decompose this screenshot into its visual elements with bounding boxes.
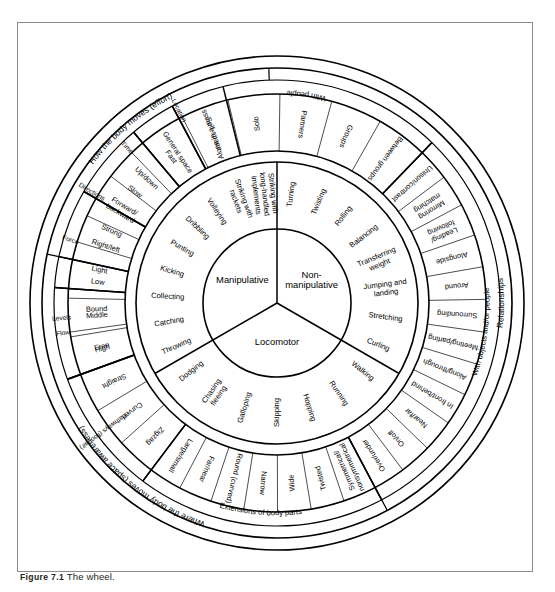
- item-label-4-11-text: Over/under: [360, 437, 388, 473]
- figure-caption-text: The wheel.: [67, 571, 115, 582]
- skill-locomotor-6: Dodging: [177, 359, 205, 384]
- skill-non-manipulative-2: Rolling: [333, 204, 354, 228]
- item-label-6-1: Curved: [120, 400, 145, 421]
- item-label-4-1-text: Mirroringmatching: [412, 191, 447, 222]
- skill-locomotor-1: Running: [327, 379, 350, 407]
- wheel-diagram: How the body moves (effort)Relationships…: [18, 23, 532, 571]
- core-label-non-manipulative: Non-manipulative: [285, 269, 338, 291]
- group-label-1: Force: [62, 233, 80, 245]
- item-group-divider-end-9: [226, 100, 240, 155]
- item-label-6-0: Zigzag: [145, 425, 167, 447]
- group-label-8-text: Directions: [78, 181, 107, 202]
- skill-manipulative-6-text: Collecting: [151, 291, 185, 302]
- item-label-7-2-text: Low: [91, 276, 106, 287]
- item-label-4-5-text: Surrounding: [437, 309, 478, 320]
- item-label-5-1: Twisted: [313, 465, 328, 491]
- group-label-4: With objects and/or people: [470, 287, 492, 377]
- item-divider-5-5: [211, 447, 229, 501]
- item-label-5-5-text: Far/near: [197, 455, 216, 485]
- skill-non-manipulative-5: Jumping andlanding: [363, 277, 408, 300]
- item-label-4-6: Meeting/parting: [427, 333, 479, 353]
- quadrant-divider-2: [382, 500, 388, 511]
- item-divider-4-5: [429, 299, 486, 300]
- group-divider-end-2: [55, 287, 69, 288]
- core-label-locomotor: Locomotor: [255, 336, 299, 347]
- skill-manipulative-2: Volleying: [205, 196, 229, 226]
- item-label-4-8: In front/behind: [410, 379, 455, 411]
- item-label-4-9-text: Near/far: [402, 406, 429, 430]
- group-divider-8: [59, 257, 73, 260]
- item-label-5-1-text: Twisted: [313, 465, 328, 491]
- item-label-5-3-text: Narrow: [258, 471, 269, 496]
- skill-locomotor-0: Walking: [350, 359, 377, 383]
- skill-non-manipulative-7-text: Curling: [366, 336, 392, 354]
- skill-non-manipulative-6-text: Stretching: [368, 310, 403, 323]
- item-label-3-3: Groups: [337, 123, 355, 149]
- skill-locomotor-4: Galloping: [235, 391, 253, 424]
- item-label-3-1-text: Solo: [251, 116, 262, 132]
- core-label-manipulative-text: Manipulative: [216, 274, 269, 285]
- item-label-5-2: Wide: [286, 474, 296, 492]
- item-label-4-4: Around: [444, 281, 469, 292]
- group-label-1-text: Force: [62, 233, 80, 245]
- quadrant-label-relationships: Relationships: [495, 278, 506, 329]
- skill-locomotor-2: Hopping: [301, 393, 318, 423]
- group-label-2-text: Flow: [56, 328, 71, 337]
- item-divider-4-4: [427, 267, 483, 277]
- skill-manipulative-5: Kicking: [159, 263, 185, 279]
- skill-locomotor-2-text: Hopping: [301, 393, 318, 423]
- skill-manipulative-8-text: Throwing: [160, 336, 192, 357]
- item-label-6-2: Straight: [101, 372, 128, 391]
- skill-locomotor-4-text: Galloping: [235, 391, 253, 424]
- group-label-3: With people: [286, 89, 327, 103]
- skill-non-manipulative-3-text: Balancing: [348, 222, 380, 249]
- item-divider-5-2: [302, 453, 311, 509]
- group-divider-9: [134, 132, 143, 143]
- item-label-7-1-text: Middle: [86, 310, 108, 320]
- item-label-5-3: Narrow: [258, 471, 269, 496]
- skill-locomotor-1-text: Running: [327, 379, 350, 407]
- item-divider-5-4: [244, 453, 253, 509]
- skill-locomotor-5: Chasingfleeing: [200, 377, 230, 410]
- skill-non-manipulative-2-text: Rolling: [333, 204, 354, 228]
- item-label-4-6-text: Meeting/parting: [427, 333, 479, 353]
- group-label-7-text: Levels: [52, 313, 72, 321]
- skill-non-manipulative-4-text: Transferringweight: [356, 245, 400, 277]
- item-divider-3-3: [317, 101, 332, 156]
- skill-manipulative-6: Collecting: [151, 291, 185, 302]
- item-label-6-2-text: Straight: [101, 372, 128, 391]
- item-label-4-10-text: On/off: [386, 427, 407, 449]
- skill-non-manipulative-1-text: Twisting: [309, 187, 328, 216]
- item-label-4-8-text: In front/behind: [410, 379, 455, 411]
- skill-manipulative-3: Dribbling: [184, 214, 212, 241]
- item-label-4-1: Mirroringmatching: [412, 191, 447, 222]
- item-label-5-2-text: Wide: [286, 474, 296, 492]
- skill-non-manipulative-3: Balancing: [348, 222, 380, 249]
- item-group-divider-7: [81, 355, 135, 374]
- skill-locomotor-0-text: Walking: [350, 359, 377, 383]
- item-label-4-2: Leading/following: [425, 218, 459, 246]
- skill-manipulative-4-text: Punting: [169, 237, 196, 258]
- item-divider-3-2: [279, 94, 280, 151]
- item-group-divider-end-2: [69, 288, 126, 292]
- item-label-4-4-text: Around: [444, 281, 469, 292]
- item-label-8-0-text: Right/left: [91, 237, 122, 255]
- item-divider-3-4: [352, 121, 380, 171]
- skill-manipulative-3-text: Dribbling: [184, 214, 212, 241]
- item-label-5-5: Far/near: [197, 455, 216, 485]
- group-divider-6: [143, 470, 151, 481]
- skill-non-manipulative-1: Twisting: [309, 187, 328, 216]
- skill-locomotor-5-text: Chasingfleeing: [200, 377, 230, 410]
- item-label-7-1: Middle: [86, 310, 108, 320]
- item-divider-4-6: [428, 324, 484, 332]
- group-label-2: Flow: [56, 328, 71, 337]
- skill-non-manipulative-0: Turning: [285, 181, 297, 207]
- item-label-4-9: Near/far: [402, 406, 429, 430]
- item-label-3-3-text: Groups: [337, 123, 355, 149]
- figure-frame: How the body moves (effort)Relationships…: [17, 22, 533, 572]
- skill-locomotor-3-text: Skipping: [272, 398, 281, 427]
- item-label-4-5: Surrounding: [437, 309, 478, 320]
- skill-manipulative-4: Punting: [169, 237, 196, 258]
- skill-manipulative-7-text: Catching: [154, 314, 185, 328]
- item-label-4-2-text: Leading/following: [425, 218, 459, 246]
